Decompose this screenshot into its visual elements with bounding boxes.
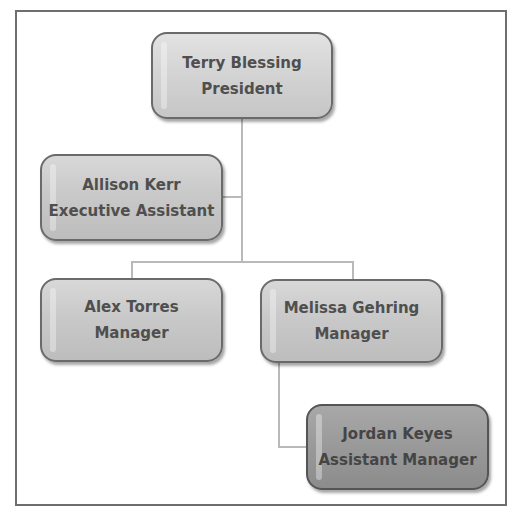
connector-president-trunk	[241, 118, 243, 263]
node-title: Executive Assistant	[49, 198, 215, 224]
connector-managers-bar	[131, 261, 354, 263]
node-name: Melissa Gehring	[284, 295, 420, 321]
node-allison-kerr[interactable]: Allison Kerr Executive Assistant	[40, 154, 223, 241]
node-jordan-keyes[interactable]: Jordan Keyes Assistant Manager	[306, 404, 489, 490]
node-title: Manager	[314, 321, 388, 347]
node-name: Terry Blessing	[182, 50, 301, 76]
node-name: Allison Kerr	[82, 172, 181, 198]
connector-to-melissa	[352, 261, 354, 280]
node-terry-blessing[interactable]: Terry Blessing President	[151, 32, 333, 119]
connector-to-jordan	[278, 446, 307, 448]
node-title: President	[201, 76, 282, 102]
node-alex-torres[interactable]: Alex Torres Manager	[40, 278, 223, 362]
connector-melissa-down	[278, 362, 280, 448]
node-title: Assistant Manager	[318, 447, 476, 473]
node-name: Alex Torres	[84, 294, 178, 320]
connector-to-alex	[131, 261, 133, 279]
node-name: Jordan Keyes	[342, 421, 452, 447]
node-title: Manager	[94, 320, 168, 346]
node-melissa-gehring[interactable]: Melissa Gehring Manager	[260, 279, 443, 363]
connector-assistant	[222, 196, 242, 198]
